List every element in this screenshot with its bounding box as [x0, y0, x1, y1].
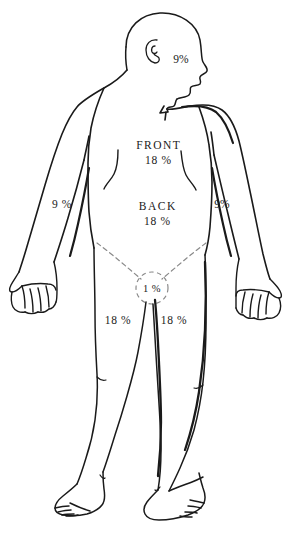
head-outline [126, 13, 208, 109]
ankle-contour-lines [100, 475, 160, 490]
groin-guide-lines [97, 243, 206, 279]
back-torso-percentage-label: 18 % [137, 215, 176, 227]
back-torso-label-group: BACK 18 % [137, 200, 176, 227]
right-arm-percentage-label: 9% [214, 198, 229, 210]
front-torso-label-group: FRONT 18 % [135, 139, 182, 166]
knee-contour-lines [97, 377, 203, 388]
head-percentage-label: 9% [173, 53, 188, 65]
torso-and-arms-outline [19, 70, 270, 279]
front-torso-region-label: FRONT [135, 139, 182, 151]
ear-icon [146, 40, 159, 63]
left-hand-outline [10, 262, 57, 314]
leg-shading [155, 262, 206, 476]
front-torso-percentage-label: 18 % [135, 154, 182, 166]
left-arm-percentage-label: 9 % [52, 198, 72, 210]
right-hand-outline [236, 259, 281, 320]
body-outline-illustration [0, 0, 301, 547]
right-leg-percentage-label: 18 % [161, 314, 187, 326]
left-leg-percentage-label: 18 % [105, 314, 131, 326]
back-torso-region-label: BACK [137, 200, 176, 212]
legs-outline [55, 248, 206, 520]
rule-of-nines-diagram: 9% FRONT 18 % BACK 18 % 9 % 9% 1 % 18 % … [0, 0, 301, 547]
groin-percentage-label: 1 % [143, 283, 161, 294]
